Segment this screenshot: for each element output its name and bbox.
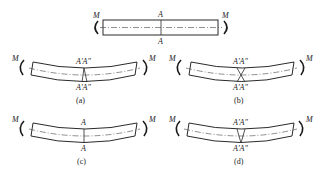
- caption-b: (b): [234, 96, 244, 105]
- panel-d: M M A'A" A'A" (d): [168, 115, 314, 166]
- moment-label-right: M: [305, 54, 314, 63]
- section-label-bottom: A: [157, 37, 163, 46]
- moment-label-right: M: [148, 115, 157, 124]
- section-label-bottom: A: [80, 144, 86, 153]
- straight-beam: M M A A: [92, 10, 230, 46]
- moment-right-icon: [224, 21, 227, 34]
- moment-left-icon: [95, 21, 98, 34]
- moment-label-right: M: [221, 11, 230, 20]
- section-labels-bottom: A'A": [232, 144, 248, 153]
- section-labels-bottom: A'A": [75, 83, 91, 92]
- caption-c: (c): [77, 157, 86, 166]
- section-labels-top: A'A": [232, 57, 248, 66]
- section-labels-top: A'A": [75, 57, 91, 66]
- moment-label-left: M: [11, 54, 20, 63]
- section-labels-bottom: A'A": [232, 83, 248, 92]
- caption-d: (d): [234, 157, 244, 166]
- moment-label-right: M: [148, 54, 157, 63]
- panel-c: M M A A (c): [11, 115, 157, 166]
- panel-b: M M A'A" A'A" (b): [168, 54, 314, 105]
- moment-label-left: M: [168, 115, 177, 124]
- moment-label-left: M: [168, 54, 177, 63]
- moment-label-left: M: [92, 11, 101, 20]
- beam-bending-diagram: M M A A M M A'A" A'A" (a) M M A'A" A'A": [0, 0, 322, 182]
- moment-label-left: M: [11, 115, 20, 124]
- section-label-top: A: [157, 10, 163, 19]
- caption-a: (a): [76, 96, 85, 105]
- section-label-top: A: [80, 118, 86, 127]
- section-labels-top: A'A": [232, 118, 248, 127]
- panel-a: M M A'A" A'A" (a): [11, 54, 157, 105]
- moment-label-right: M: [305, 115, 314, 124]
